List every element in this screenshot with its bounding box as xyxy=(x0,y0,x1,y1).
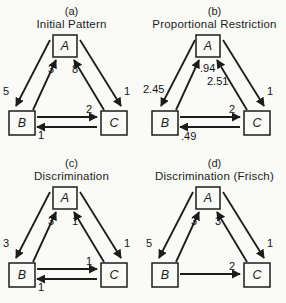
panel-tag: (a) xyxy=(0,5,143,18)
edge-value-b-to-c: 2 xyxy=(86,103,92,115)
panel-title: Discrimination xyxy=(0,170,143,183)
edge-a-to-c xyxy=(80,192,121,258)
node-label-c: C xyxy=(252,268,262,282)
panel-tag: (c) xyxy=(0,157,143,170)
edge-value-c-to-a: 1 xyxy=(72,215,78,227)
panel-b: (b) Proportional Restriction A B C 2.45 … xyxy=(143,0,286,152)
node-label-a: A xyxy=(60,39,69,53)
edge-value-b-to-a: 3 xyxy=(48,215,54,227)
panel-c-header: (c) Discrimination xyxy=(0,152,143,183)
edge-a-to-b xyxy=(159,192,193,258)
edge-b-to-a xyxy=(176,60,199,110)
panel-title: Initial Pattern xyxy=(0,18,143,31)
edge-a-to-c xyxy=(80,40,121,106)
edge-value-a-to-c: 1 xyxy=(124,85,130,97)
node-label-b: B xyxy=(161,116,169,130)
edge-value-a-to-c: 1 xyxy=(124,237,130,249)
edge-value-b-to-a: 3 xyxy=(191,215,197,227)
edge-value-c-to-b: 1 xyxy=(38,129,44,141)
panel-b-header: (b) Proportional Restriction xyxy=(143,0,286,31)
edge-a-to-b xyxy=(16,40,50,106)
panel-d-header: (d) Discrimination (Frisch) xyxy=(143,152,286,183)
edge-value-b-to-a: 3 xyxy=(48,63,54,75)
panel-title: Discrimination (Frisch) xyxy=(143,170,286,183)
panel-c: (c) Discrimination A B C 3 3 1 1 1 1 xyxy=(0,152,143,303)
node-label-a: A xyxy=(203,191,212,205)
edge-value-c-to-a: 2.51 xyxy=(207,75,228,87)
node-label-b: B xyxy=(18,268,26,282)
edge-value-a-to-c: 1 xyxy=(267,237,273,249)
panel-a-header: (a) Initial Pattern xyxy=(0,0,143,31)
edge-a-to-b xyxy=(161,40,195,106)
node-label-b: B xyxy=(18,116,26,130)
edge-value-a-to-b: 2.45 xyxy=(143,83,164,95)
panel-tag: (b) xyxy=(143,5,286,18)
edge-value-a-to-b: 3 xyxy=(3,237,9,249)
triangle-diagram-d: A B C 5 3 3 1 2 xyxy=(143,185,286,303)
edge-value-c-to-b: .49 xyxy=(181,130,196,142)
edge-value-b-to-c: 2 xyxy=(229,260,235,272)
edge-a-to-b xyxy=(16,192,50,258)
panel-a: (a) Initial Pattern A B C 5 3 8 1 2 1 xyxy=(0,0,143,152)
edge-value-b-to-c: 1 xyxy=(86,255,92,267)
figure-grid: (a) Initial Pattern A B C 5 3 8 1 2 1 (b… xyxy=(0,0,286,303)
edge-a-to-c xyxy=(223,192,264,258)
panel-tag: (d) xyxy=(143,157,286,170)
edge-value-c-to-b: 1 xyxy=(38,281,44,293)
node-label-a: A xyxy=(203,39,212,53)
panel-title: Proportional Restriction xyxy=(143,18,286,31)
node-label-b: B xyxy=(161,268,169,282)
triangle-diagram-c: A B C 3 3 1 1 1 1 xyxy=(0,185,143,303)
edge-value-a-to-b: 5 xyxy=(3,85,9,97)
edge-a-to-c xyxy=(223,40,264,106)
edge-value-b-to-a: .94 xyxy=(200,62,215,74)
node-label-c: C xyxy=(109,268,119,282)
edge-value-b-to-c: 2 xyxy=(229,103,235,115)
triangle-diagram-a: A B C 5 3 8 1 2 1 xyxy=(0,33,143,151)
node-label-c: C xyxy=(252,116,262,130)
node-label-a: A xyxy=(60,191,69,205)
node-label-c: C xyxy=(109,116,119,130)
edge-c-to-a xyxy=(217,212,247,262)
edge-value-a-to-c: 1 xyxy=(267,85,273,97)
panel-d: (d) Discrimination (Frisch) A B C 5 3 3 … xyxy=(143,152,286,303)
edge-value-c-to-a: 8 xyxy=(72,63,78,75)
triangle-diagram-b: A B C 2.45 .94 2.51 1 2 .49 xyxy=(143,33,286,151)
edge-value-c-to-a: 3 xyxy=(215,215,221,227)
edge-value-a-to-b: 5 xyxy=(146,237,152,249)
